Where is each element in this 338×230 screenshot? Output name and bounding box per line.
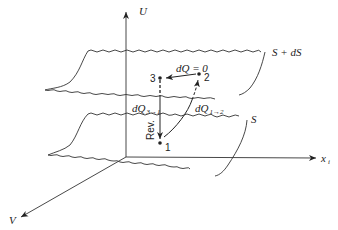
axes bbox=[21, 12, 316, 217]
point-3 bbox=[158, 76, 162, 80]
u-axis-label: U bbox=[139, 5, 148, 17]
process-arrows bbox=[160, 74, 198, 139]
arrow-1-to-2-dashed bbox=[192, 80, 198, 100]
v-axis-label: V bbox=[9, 214, 17, 226]
thermo-surface-diagram: U xi V S + dS S 1 2 3 dQ = 0 dQ3→1 dQ1→2… bbox=[0, 0, 338, 230]
point-1 bbox=[158, 141, 162, 145]
x-axis-label: xi bbox=[320, 152, 330, 166]
point-1-label: 1 bbox=[165, 142, 171, 153]
dq-zero-label: dQ = 0 bbox=[176, 62, 208, 74]
lower-surface-label: S bbox=[251, 113, 257, 125]
dq-3-to-1-label: dQ3→1 bbox=[132, 102, 160, 116]
dq-1-to-2-label: dQ1→2 bbox=[195, 102, 224, 116]
x-axis bbox=[126, 157, 316, 158]
point-3-label: 3 bbox=[150, 73, 156, 84]
upper-surface-label: S + dS bbox=[272, 46, 302, 58]
arrow-1-to-2-solid bbox=[164, 100, 192, 137]
v-axis bbox=[21, 157, 126, 217]
reversible-label: Rev. bbox=[145, 120, 156, 140]
arrow-2-to-3 bbox=[166, 74, 196, 78]
